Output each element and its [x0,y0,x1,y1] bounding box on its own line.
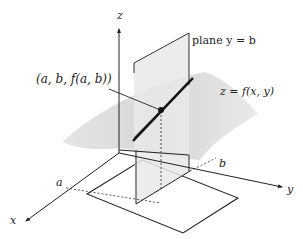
plane-label: plane y = b [192,34,256,47]
surface-plane-diagram: z x y a b (a, b, f(a, b)) plane y = b z … [0,0,303,239]
z-axis-label: z [116,9,123,22]
x-axis-label: x [10,214,17,227]
b-tick-label: b [219,157,226,170]
a-tick-label: a [56,176,63,189]
y-axis-label: y [286,183,294,196]
point-a-b-fab [158,107,164,113]
point-label: (a, b, f(a, b)) [36,72,112,86]
surface-label: z = f(x, y) [219,85,274,98]
